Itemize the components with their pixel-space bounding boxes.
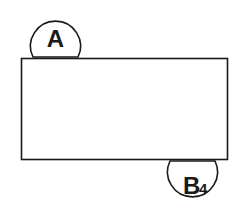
label-b-text: B xyxy=(183,172,200,199)
diagram-canvas: A B 4 xyxy=(0,0,242,217)
label-b-subscript: 4 xyxy=(199,180,208,197)
main-rectangle xyxy=(22,59,228,160)
label-a-text: A xyxy=(47,25,64,52)
